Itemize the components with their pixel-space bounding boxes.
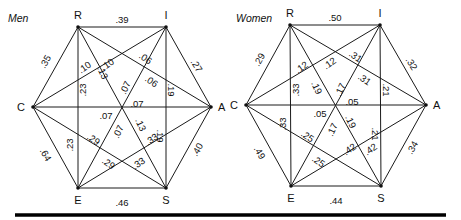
vertex-label-S: S <box>377 192 384 204</box>
edge-label-C-A: .07 <box>99 110 112 121</box>
edge-label-R-S: .13 <box>133 116 149 133</box>
vertex-dot-S <box>379 184 383 188</box>
vertex-dot-A <box>209 105 213 109</box>
edge-label-R-I: .39 <box>115 14 128 25</box>
vertex-label-I: I <box>378 7 381 19</box>
vertex-dot-R <box>288 23 292 27</box>
vertex-label-S: S <box>162 194 169 206</box>
vertex-dot-R <box>76 25 80 29</box>
edge-label-R-E: .23 <box>64 138 75 151</box>
vertex-dot-A <box>424 103 428 107</box>
edge-label-S-E: .44 <box>329 195 342 206</box>
edge-label-A-S: .40 <box>189 141 205 158</box>
edge-label-I-E: .17 <box>324 121 340 138</box>
edge-label-C-S: .25 <box>299 128 316 145</box>
vertex-dot-C <box>244 103 248 107</box>
edge-label-E-C: .64 <box>38 146 54 163</box>
edge-A-E <box>291 105 426 186</box>
edge-label-I-S: .19 <box>166 83 177 96</box>
edge-label-S-E: .46 <box>115 197 128 208</box>
edge-R-A <box>290 25 426 105</box>
diagram-women: Women.50.32.34.44.49.29.33.33.21.21.19.1… <box>230 7 441 206</box>
vertex-label-R: R <box>74 9 82 21</box>
edge-label-C-S: .29 <box>85 131 102 148</box>
edge-label-I-C: .12 <box>321 55 338 72</box>
edge-label-E-C: .49 <box>252 144 268 161</box>
edge-label-I-E: .07 <box>110 123 126 140</box>
edge-label-C-R: .29 <box>251 51 267 68</box>
edge-label-C-S: .25 <box>310 153 327 170</box>
vertex-label-E: E <box>287 192 294 204</box>
edge-E-C <box>246 105 291 186</box>
edge-label-R-A: .31 <box>356 71 373 88</box>
diagram-title: Women <box>236 12 272 24</box>
edge-label-R-I: .50 <box>328 12 341 23</box>
vertex-dot-I <box>164 25 168 29</box>
edge-label-I-S: .21 <box>381 83 392 96</box>
edge-label-I-C: .12 <box>293 59 310 76</box>
edge-C-R <box>246 25 290 105</box>
edge-label-R-E: .33 <box>277 117 288 130</box>
edge-label-R-A: .31 <box>347 48 364 65</box>
edge-label-I-E: .07 <box>117 79 133 96</box>
diagram-title: Men <box>8 12 29 24</box>
edge-label-C-A: .05 <box>313 108 326 119</box>
edge-label-I-S: .21 <box>370 127 381 140</box>
vertex-label-C: C <box>17 101 25 113</box>
edge-label-R-S: .19 <box>343 113 359 130</box>
edge-label-C-A: .05 <box>345 96 358 107</box>
edge-label-A-S: .34 <box>404 139 420 156</box>
vertex-label-A: A <box>433 99 441 111</box>
edge-label-R-E: .33 <box>290 83 301 96</box>
edge-label-C-A: .07 <box>130 98 143 109</box>
edge-label-R-E: .23 <box>77 83 88 96</box>
vertex-dot-C <box>31 105 35 109</box>
vertex-label-A: A <box>218 101 226 113</box>
edge-label-C-S: .29 <box>100 155 117 172</box>
vertex-dot-S <box>164 186 168 190</box>
vertex-label-R: R <box>286 7 294 19</box>
vertex-label-E: E <box>74 194 81 206</box>
vertex-dot-E <box>289 184 293 188</box>
vertex-dot-I <box>378 23 382 27</box>
edge-label-C-R: .35 <box>37 53 53 70</box>
vertex-label-C: C <box>230 99 238 111</box>
vertex-dot-E <box>76 186 80 190</box>
hexagon-correlation-diagrams: Men.39.27.40.46.64.35.23.23.19.19.13.13.… <box>0 0 461 220</box>
diagram-men: Men.39.27.40.46.64.35.23.23.19.19.13.13.… <box>8 9 226 208</box>
edge-label-A-E: .33 <box>130 155 147 172</box>
vertex-label-I: I <box>164 9 167 21</box>
edge-I-C <box>246 25 380 105</box>
edge-label-A-E: .42 <box>362 141 379 158</box>
